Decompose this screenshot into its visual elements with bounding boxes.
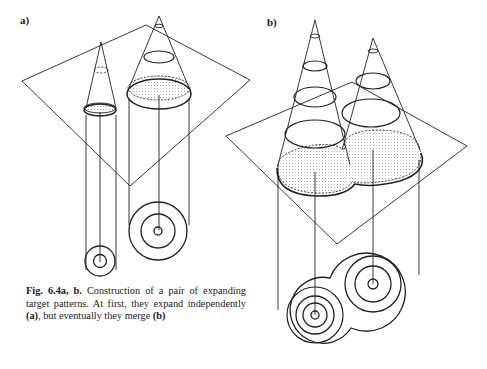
- panel-a-diagram: [22, 16, 250, 276]
- caption-prefix: Fig. 6.4a, b.: [26, 285, 82, 296]
- plane-a: [22, 25, 250, 186]
- caption-ref-a: (a): [26, 310, 38, 321]
- panel-a-label: a): [20, 14, 29, 26]
- small-cone: [84, 42, 116, 270]
- panel-b-label: b): [267, 16, 277, 28]
- panel-b-diagram: [226, 20, 467, 343]
- figure-caption: Fig. 6.4a, b. Construction of a pair of …: [26, 285, 246, 323]
- targets-b: [287, 253, 405, 343]
- left-cone: [278, 20, 350, 165]
- caption-ref-b: (b): [153, 310, 166, 321]
- caption-text-2: , but eventually they merge: [38, 310, 153, 321]
- large-cone: [127, 16, 191, 230]
